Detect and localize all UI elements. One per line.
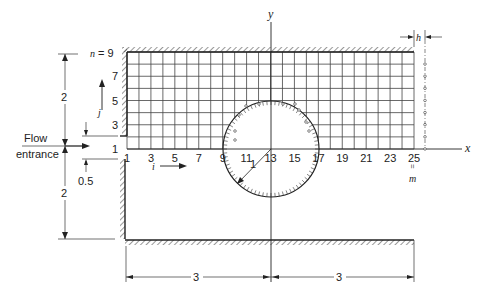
upper-height-label: 2 xyxy=(61,91,67,103)
row-label: 7 xyxy=(112,70,118,82)
j-direction-arrow: j xyxy=(96,79,105,118)
entrance-label: entrance xyxy=(16,148,59,160)
flow-past-cylinder-diagram: y x 1 h n = 9 1357 135791113151719212325… xyxy=(0,0,482,298)
row-label: 3 xyxy=(112,119,118,131)
bottom-wall xyxy=(125,240,414,250)
column-label: 5 xyxy=(172,152,178,164)
column-label: 19 xyxy=(336,152,348,164)
h-label: h xyxy=(416,32,421,43)
right-length-label: 3 xyxy=(336,271,342,283)
y-axis-label: y xyxy=(267,7,274,21)
m-label: m xyxy=(409,173,416,184)
row-label: 5 xyxy=(112,95,118,107)
column-label: 21 xyxy=(360,152,372,164)
column-label: 25 xyxy=(408,152,420,164)
column-label: 11 xyxy=(241,152,252,164)
column-label: 7 xyxy=(196,152,202,164)
j-label: j xyxy=(96,107,101,118)
h-dimension: h xyxy=(400,30,442,47)
left-lower-wall xyxy=(120,159,125,239)
column-label: 9 xyxy=(220,152,226,164)
length-dimensions: 3 3 xyxy=(126,246,414,284)
left-upper-wall xyxy=(120,47,127,136)
column-labels: 135791113151719212325 xyxy=(124,152,420,164)
column-label: 1 xyxy=(124,152,130,164)
row-label: 1 xyxy=(112,143,118,155)
column-label: 13 xyxy=(265,152,277,164)
left-length-label: 3 xyxy=(193,271,199,283)
top-wall xyxy=(123,47,414,52)
n-equals-label: n = 9 xyxy=(90,47,114,59)
column-label: 17 xyxy=(312,152,324,164)
i-direction-arrow: i xyxy=(152,161,187,172)
column-label: 23 xyxy=(384,152,396,164)
row-labels: 1357 xyxy=(112,70,118,155)
offset-label: 0.5 xyxy=(78,175,93,187)
lower-height-label: 2 xyxy=(61,187,67,199)
flow-entrance: Flow entrance xyxy=(16,132,90,160)
x-axis-label: x xyxy=(464,141,471,155)
flow-label: Flow xyxy=(24,132,47,144)
m-equals: = xyxy=(408,164,417,169)
column-label: 15 xyxy=(288,152,300,164)
i-label: i xyxy=(152,161,155,172)
